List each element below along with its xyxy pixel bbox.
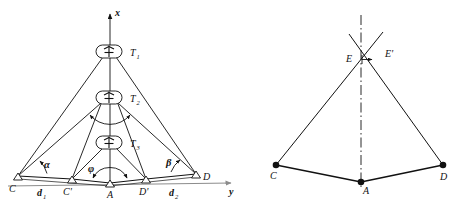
right-point-label-Ep: E' (384, 48, 394, 59)
angle-phi-label: φ (88, 163, 94, 174)
point-label-D: D (202, 171, 211, 182)
station-T1-sub: 1 (137, 53, 140, 60)
angle-alpha-label: α (44, 159, 50, 170)
sight-line-D-T1 (116, 57, 196, 174)
angle-arc-beta (171, 160, 180, 172)
point-label-C: C (9, 183, 16, 194)
baseline-C-A (276, 165, 361, 182)
point-label-A: A (106, 189, 114, 200)
baseline-C-Cp (18, 176, 72, 179)
baseline-A-D (361, 165, 443, 182)
sight-line-D-E (349, 34, 443, 165)
filled-dot-D (440, 162, 447, 169)
station-T2-sub: 2 (137, 99, 141, 106)
left-panel: T 1 T 2 T 3 (8, 7, 234, 200)
station-T1 (96, 45, 122, 58)
sight-line-C-T1 (18, 57, 103, 176)
point-label-Cp: C' (63, 186, 73, 197)
baseline-Cp-A (72, 179, 110, 183)
distance-sub-d2: 2 (175, 193, 179, 200)
baseline-A-Dp (110, 179, 146, 183)
right-point-label-E: E (345, 53, 352, 64)
station-T3-sub: 3 (136, 144, 141, 151)
x-axis-label: x (114, 7, 120, 18)
sight-line-Dp-T3 (116, 148, 146, 179)
y-axis-label: y (228, 186, 234, 197)
right-point-label-D: D (439, 171, 448, 182)
station-T2 (96, 91, 122, 104)
figure-root: T 1 T 2 T 3 (0, 0, 466, 214)
triangle-marker-A (106, 180, 115, 187)
right-point-label-A: A (362, 185, 370, 196)
right-panel: C A D E E' (270, 15, 448, 196)
point-label-Dp: D' (138, 186, 149, 197)
baseline-Dp-D (146, 174, 196, 179)
y-axis-line (8, 183, 231, 186)
distance-sub-d1: 1 (43, 193, 46, 200)
station-T3 (96, 136, 122, 149)
angle-beta-label: β (165, 157, 172, 168)
technical-diagram-svg: T 1 T 2 T 3 (0, 0, 466, 214)
right-point-label-C: C (270, 170, 277, 181)
sight-line-C-Ep (276, 32, 383, 165)
filled-dot-C (273, 162, 280, 169)
